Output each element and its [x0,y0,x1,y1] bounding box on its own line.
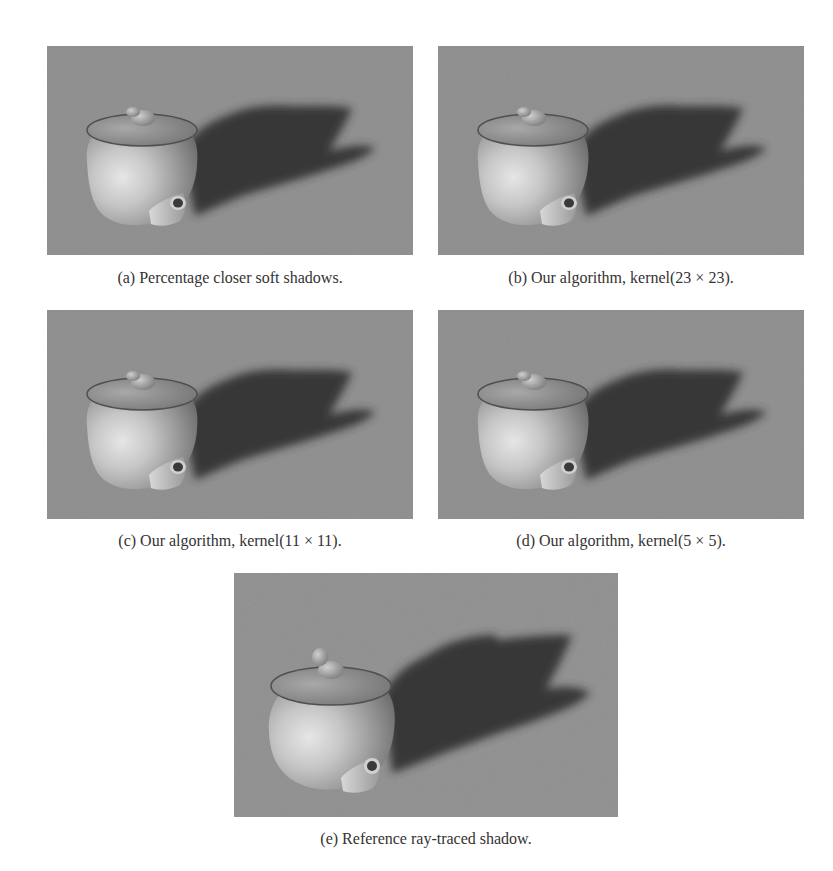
teapot-render-pcss [47,46,413,255]
teapot-image [234,573,618,817]
teapot-render-kernel-11 [47,310,413,519]
teapot-render-kernel-5 [438,310,804,519]
subfigure-caption-d: (d) Our algorithm, kernel(5 × 5). [438,531,804,551]
subfigure-caption-b: (b) Our algorithm, kernel(23 × 23). [438,268,804,288]
teapot-image [438,46,804,255]
subfigure-caption-c: (c) Our algorithm, kernel(11 × 11). [47,531,413,551]
teapot-render-kernel-23 [438,46,804,255]
subfigure-caption-a: (a) Percentage closer soft shadows. [47,268,413,288]
teapot-render-raytraced [234,573,618,817]
teapot-image [47,46,413,255]
teapot-image [47,310,413,519]
subfigure-caption-e: (e) Reference ray-traced shadow. [234,829,618,849]
teapot-image [438,310,804,519]
